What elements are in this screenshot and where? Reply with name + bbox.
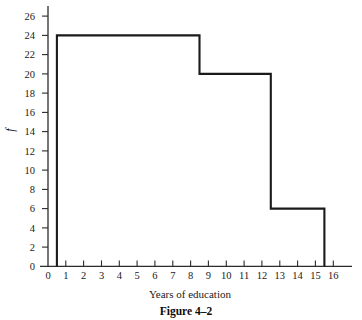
y-tick-label: 22	[25, 49, 36, 60]
x-tick-label: 3	[99, 270, 104, 281]
x-axis-title: Years of education	[149, 288, 231, 300]
y-tick-label: 0	[30, 261, 35, 272]
y-tick-label: 6	[30, 203, 35, 214]
x-tick-label: 13	[275, 270, 286, 281]
y-tick-label: 24	[25, 30, 36, 41]
y-tick-label: 12	[25, 146, 36, 157]
figure-caption: Figure 4–2	[160, 305, 213, 318]
x-tick-label: 12	[257, 270, 268, 281]
y-axis-ticks	[42, 16, 48, 247]
x-axis-ticks	[66, 260, 334, 266]
y-tick-label: 10	[25, 165, 36, 176]
y-tick-label: 16	[25, 107, 36, 118]
x-tick-label: 2	[81, 270, 86, 281]
x-tick-label: 9	[206, 270, 211, 281]
figure-container: f 0 2 4 6 8 10 12 14 16 18 20 22 24 26	[0, 0, 362, 320]
x-tick-label: 11	[239, 270, 249, 281]
y-tick-label: 14	[25, 126, 36, 137]
y-tick-label: 2	[30, 242, 35, 253]
x-tick-label: 6	[152, 270, 157, 281]
x-tick-label: 5	[134, 270, 139, 281]
x-tick-label: 1	[63, 270, 68, 281]
x-tick-label: 8	[188, 270, 193, 281]
x-tick-label: 16	[328, 270, 339, 281]
y-axis-tick-labels: 0 2 4 6 8 10 12 14 16 18 20 22 24 26	[25, 11, 36, 272]
x-tick-label: 10	[221, 270, 232, 281]
y-axis-title: f	[3, 127, 17, 132]
y-tick-label: 20	[25, 69, 36, 80]
x-tick-label: 7	[170, 270, 175, 281]
x-tick-label: 4	[117, 270, 123, 281]
y-tick-label: 4	[30, 223, 36, 234]
x-tick-label: 14	[292, 270, 303, 281]
y-tick-label: 18	[25, 88, 36, 99]
y-tick-label: 26	[25, 11, 36, 22]
x-tick-label: 15	[310, 270, 321, 281]
x-tick-label: 0	[45, 270, 50, 281]
histogram-chart: f 0 2 4 6 8 10 12 14 16 18 20 22 24 26	[0, 0, 362, 320]
histogram-bars	[57, 35, 325, 266]
y-tick-label: 8	[30, 184, 35, 195]
x-axis-tick-labels: 0 1 2 3 4 5 6 7 8 9 10 11 12 13 14 15 16	[45, 270, 338, 281]
